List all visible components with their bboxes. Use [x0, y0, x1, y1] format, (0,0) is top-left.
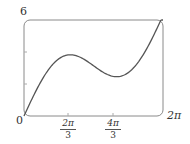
tick-denominator: 3 — [105, 130, 121, 140]
y-top-label: 6 — [20, 6, 27, 17]
tick-denominator: 3 — [60, 130, 76, 140]
x-tick-label-2pi-3: 2π 3 — [60, 119, 76, 140]
tick-numerator: 4π — [105, 119, 121, 130]
function-plot — [0, 0, 190, 144]
tick-numerator: 2π — [60, 119, 76, 130]
function-curve — [24, 20, 163, 116]
x-end-label: 2π — [167, 110, 181, 121]
origin-label: 0 — [16, 115, 23, 126]
x-tick-label-4pi-3: 4π 3 — [105, 119, 121, 140]
plot-frame — [24, 20, 163, 116]
